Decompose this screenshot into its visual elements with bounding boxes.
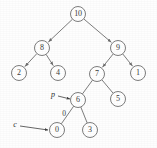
tree-edge [83, 80, 93, 93]
tree-node-label: 7 [95, 70, 99, 78]
tree-node-label: 1 [136, 69, 140, 77]
tree-node-label: 0 [55, 126, 59, 134]
pointer-arrow-p [58, 96, 70, 99]
tree-node-label: 3 [88, 126, 92, 134]
tree-node-label: 6 [76, 96, 80, 104]
tree-edge [102, 80, 113, 93]
pointer-label-c: c [13, 120, 17, 129]
pointer-arrow-c [20, 126, 48, 130]
binary-tree-diagram: 1089247165030pc [0, 0, 157, 148]
tree-edge [123, 54, 132, 66]
tree-node-label: 8 [40, 44, 44, 52]
tree-node-label: 5 [116, 95, 120, 103]
tree-edge [49, 19, 73, 41]
tree-node-label: 4 [56, 69, 60, 77]
pointer-label-p: p [51, 90, 55, 99]
tree-node-label: 9 [116, 44, 120, 52]
tree-node-label: 10 [74, 10, 82, 18]
tree-graphics [0, 0, 157, 148]
tree-node-label: 2 [17, 69, 21, 77]
tree-edge [84, 19, 111, 42]
edge-weight-label: 0 [62, 109, 66, 118]
tree-edge [25, 54, 36, 66]
node-layer [12, 7, 146, 138]
tree-edge [81, 107, 87, 122]
tree-edge [46, 55, 53, 66]
tree-edge [103, 54, 113, 67]
